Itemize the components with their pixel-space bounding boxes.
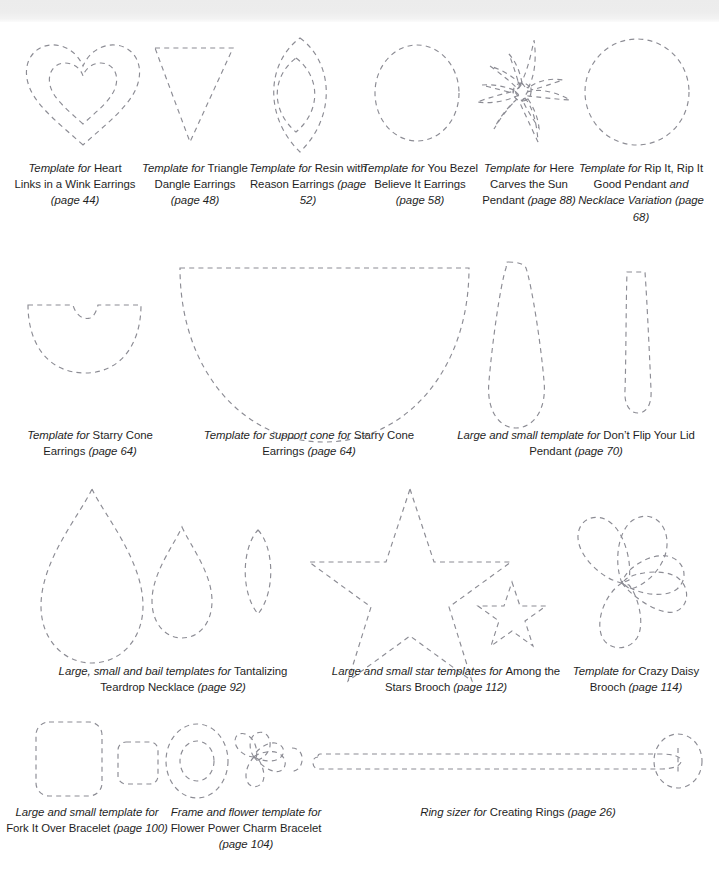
caption-support-page: (page 64) (307, 445, 355, 457)
teardrop-large-shape (41, 489, 143, 663)
caption-rip-em1: Template for (579, 162, 644, 174)
sunburst-shape (477, 40, 570, 142)
caption-ring-sizer: Ring sizer for Creating Rings (page 26) (368, 804, 668, 820)
caption-tant-em1: Large, small and bail templates for (59, 665, 234, 677)
caption-starry-page: (page 64) (88, 445, 136, 457)
fork-square-small-shape (118, 742, 158, 784)
lid-teardrop-small-shape (625, 272, 651, 413)
resin-leaf-outer-shape (274, 38, 327, 152)
caption-bezel-em1: Template for (362, 162, 427, 174)
caption-flower-em1: Frame and flower template for (171, 806, 322, 818)
caption-triangle-page: (page 48) (171, 194, 219, 206)
caption-triangle-em1: Template for (142, 162, 207, 174)
template-sheet-page: Template for Heart Links in a Wink Earri… (0, 0, 719, 881)
caption-rip-it-good: Template for Rip It, Rip It Good Pendant… (578, 160, 704, 225)
bezel-circle-shape (375, 45, 459, 141)
caption-here-carves-sun: Template for Here Carves the Sun Pendant… (476, 160, 582, 209)
teardrop-small-shape (152, 527, 212, 638)
heart-outer-shape (26, 45, 139, 145)
caption-bezel-believe: Template for You Bezel Believe It Earrin… (362, 160, 478, 209)
starry-cone-shape (28, 305, 141, 373)
ring-sizer-end-circle (654, 734, 702, 788)
caption-sun-em1: Template for (484, 162, 549, 174)
caption-ring-page: (page 26) (567, 806, 615, 818)
caption-heart-links: Template for Heart Links in a Wink Earri… (14, 160, 136, 209)
lid-teardrop-large-shape (489, 262, 545, 428)
rip-it-oval-shape (585, 39, 689, 145)
frame-ring-inner-shape (180, 741, 214, 781)
teardrop-bail-shape (245, 530, 271, 614)
caption-resin-em1: Template for (249, 162, 314, 174)
caption-fork-rest: Fork It Over Bracelet (6, 822, 113, 834)
star-large-shape (309, 489, 511, 681)
star-small-shape (478, 582, 546, 646)
caption-ring-rest: Creating Rings (490, 806, 568, 818)
charm-flower-shape (235, 732, 302, 786)
caption-starry-cone: Template for Starry Cone Earrings (page … (10, 427, 170, 459)
caption-dont-flip-lid: Large and small template for Don’t Flip … (450, 427, 702, 459)
frame-ring-outer-shape (166, 724, 228, 798)
caption-heart-page: (page 44) (51, 194, 99, 206)
caption-support-em1: Template for support cone for (204, 429, 354, 441)
caption-fork-it-over: Large and small template for Fork It Ove… (6, 804, 168, 836)
caption-resin-with-reason: Template for Resin with Reason Earrings … (249, 160, 367, 209)
caption-daisy-em1: Template for (573, 665, 638, 677)
caption-bezel-page: (page 58) (396, 194, 444, 206)
caption-flower-power-charm: Frame and flower template for Flower Pow… (168, 804, 324, 853)
support-cone-shape (180, 268, 469, 442)
resin-leaf-inner-shape (277, 58, 315, 132)
caption-stars-page: (page 112) (453, 681, 507, 693)
caption-among-the-stars: Large and small star templates for Among… (324, 663, 568, 695)
triangle-dangle-shape (155, 48, 233, 142)
fork-square-large-shape (36, 722, 102, 796)
caption-flower-page: (page 104) (219, 838, 274, 850)
caption-flower-rest: Flower Power Charm Bracelet (171, 822, 322, 834)
caption-ring-em1: Ring sizer for (420, 806, 490, 818)
caption-starry-em1: Template for (27, 429, 92, 441)
heart-inner-shape (49, 63, 116, 124)
caption-crazy-daisy: Template for Crazy Daisy Brooch (page 11… (566, 663, 706, 695)
caption-fork-page: (page 100) (113, 822, 168, 834)
daisy-flower-shape (578, 516, 687, 648)
caption-dont-em1: Large and small template for (457, 429, 603, 441)
caption-heart-em1: Template for (28, 162, 93, 174)
caption-daisy-page: (page 114) (629, 681, 683, 693)
caption-tant-page: (page 92) (197, 681, 245, 693)
caption-dont-page: (page 70) (574, 445, 622, 457)
caption-sun-page: (page 88) (527, 194, 575, 206)
caption-triangle-dangle: Template for Triangle Dangle Earrings (p… (140, 160, 250, 209)
caption-fork-em1: Large and small template for (16, 806, 159, 818)
caption-support-cone: Template for support cone for Starry Con… (194, 427, 424, 459)
caption-tantalizing-teardrop: Large, small and bail templates for Tant… (36, 663, 310, 695)
caption-stars-em1: Large and small star templates for (332, 665, 506, 677)
ring-sizer-shape (313, 754, 681, 769)
